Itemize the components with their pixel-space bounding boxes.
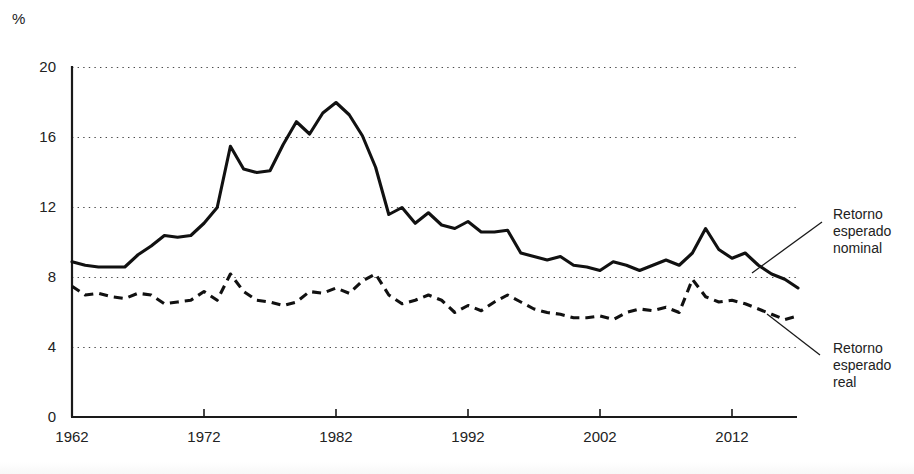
annotation-real-line-1: Retorno [833, 340, 891, 357]
chart-container: % 048121620 196219721982199220022012 Ret… [0, 0, 914, 474]
series-line-real [72, 274, 798, 320]
y-axis-tick-label: 0 [20, 408, 56, 425]
x-axis-tick-label: 1992 [438, 428, 498, 445]
y-axis-tick-label: 16 [20, 128, 56, 145]
annotation-nominal-line-1: Retorno [833, 206, 891, 223]
annotation-nominal-line-2: esperado [833, 223, 891, 240]
annotation-real-line-3: real [833, 374, 891, 391]
x-axis-tick-label: 2002 [570, 428, 630, 445]
y-axis-tick-label: 8 [20, 268, 56, 285]
page-edge-shadow [0, 462, 914, 474]
annotation-nominal-line-3: nominal [833, 240, 891, 257]
y-axis-tick-label: 4 [20, 338, 56, 355]
gridlines-group [72, 68, 797, 348]
x-axis-tick-label: 1982 [306, 428, 366, 445]
x-axis-ticks-group [204, 409, 732, 417]
annotation-label-nominal: Retorno esperado nominal [833, 206, 891, 257]
line-chart-plot [0, 0, 914, 474]
annotation-label-real: Retorno esperado real [833, 340, 891, 391]
leader-line-real [767, 314, 820, 355]
y-axis-tick-label: 12 [20, 198, 56, 215]
leader-line-nominal [752, 222, 822, 273]
y-axis-tick-label: 20 [20, 58, 56, 75]
series-line-nominal [72, 103, 798, 289]
x-axis-tick-label: 1962 [42, 428, 102, 445]
x-axis-tick-label: 2012 [702, 428, 762, 445]
x-axis-tick-label: 1972 [174, 428, 234, 445]
annotation-real-line-2: esperado [833, 357, 891, 374]
